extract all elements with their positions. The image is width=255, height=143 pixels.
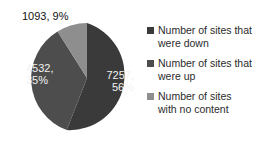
slice-label-down: 7257,56% — [94, 69, 134, 93]
slice-label-up: 4532,35% — [26, 62, 70, 86]
legend-swatch-icon-down — [147, 27, 154, 34]
pie-chart-figure: 7257,56% 4532,35% 1093, 9% Number of sit… — [0, 0, 255, 143]
legend-label-up: Number of sites that were up — [158, 57, 253, 83]
legend-swatch-icon-no-content — [147, 93, 154, 100]
legend-swatch-icon-up — [147, 60, 154, 67]
chart-legend: Number of sites that were down Number of… — [147, 24, 253, 123]
legend-label-no-content: Number of sites with no content — [158, 90, 253, 116]
pie-plot-area: 7257,56% 4532,35% 1093, 9% — [0, 0, 150, 143]
legend-item-up[interactable]: Number of sites that were up — [147, 57, 253, 83]
legend-item-down[interactable]: Number of sites that were down — [147, 24, 253, 50]
legend-item-no-content[interactable]: Number of sites with no content — [147, 90, 253, 116]
slice-label-no-content: 1093, 9% — [22, 10, 68, 23]
legend-label-down: Number of sites that were down — [158, 24, 253, 50]
